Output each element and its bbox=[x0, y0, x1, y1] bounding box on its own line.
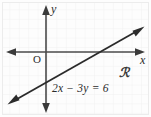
origin-label: O bbox=[33, 54, 41, 65]
coordinate-plane-figure: y x O 2x − 3y = 6 ℛ bbox=[0, 0, 151, 117]
region-label: ℛ bbox=[119, 66, 129, 79]
line-arrow-upper-right bbox=[133, 27, 145, 37]
equation-label: 2x − 3y = 6 bbox=[52, 83, 109, 95]
y-axis-label: y bbox=[51, 3, 56, 15]
x-axis-label: x bbox=[140, 54, 145, 66]
line-arrow-lower-left bbox=[8, 95, 20, 105]
plot-line-layer bbox=[0, 0, 151, 117]
